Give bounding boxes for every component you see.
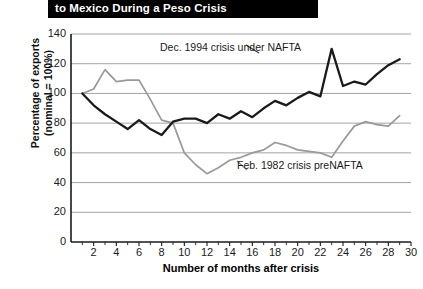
x-axis-title: Number of months after crisis: [71, 262, 411, 274]
x-tick-label: 24: [332, 246, 354, 258]
y-tick-label: 100: [36, 87, 66, 98]
y-tick-label: 0: [36, 236, 66, 247]
x-tick-label: 26: [355, 246, 377, 258]
x-tick-label: 8: [151, 246, 173, 258]
y-tick-label-group: 020406080100120140: [32, 0, 66, 289]
y-tick-label: 40: [36, 177, 66, 188]
x-tick-label: 18: [264, 246, 286, 258]
x-tick-label: 12: [196, 246, 218, 258]
y-tick-label: 20: [36, 206, 66, 217]
x-tick-label: 28: [377, 246, 399, 258]
chart-svg: [71, 34, 411, 242]
x-tick-label: 14: [219, 246, 241, 258]
series-group: [82, 49, 399, 174]
series-line: [82, 49, 399, 135]
x-tick-label: 6: [128, 246, 150, 258]
annotation-nafta: Dec. 1994 crisis under NAFTA: [160, 41, 301, 53]
chart-title-banner: to Mexico During a Peso Crisis: [48, 0, 318, 18]
y-tick-label: 80: [36, 117, 66, 128]
y-tick-label: 120: [36, 58, 66, 69]
x-tick-label: 16: [241, 246, 263, 258]
x-tick-label: 4: [105, 246, 127, 258]
x-tick-label: 2: [83, 246, 105, 258]
x-tick-label: 22: [309, 246, 331, 258]
x-tick-label: 30: [400, 246, 422, 258]
y-tick-label: 60: [36, 147, 66, 158]
x-tick-label: 20: [287, 246, 309, 258]
x-tick-label: 10: [173, 246, 195, 258]
annotation-prenafta: Feb. 1982 crisis preNAFTA: [237, 159, 363, 171]
plot-area: [71, 34, 411, 242]
y-tick-label: 140: [36, 28, 66, 39]
x-tick-label-group: 24681012141618202224262830: [71, 246, 416, 260]
